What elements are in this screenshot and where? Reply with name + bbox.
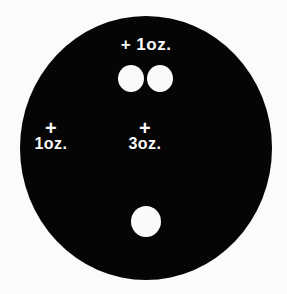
left-weight-label: 1oz. xyxy=(34,135,67,152)
center-weight-label: 3oz. xyxy=(128,135,161,152)
bottom-hole xyxy=(131,206,161,237)
top-right-hole xyxy=(147,65,173,92)
top-left-hole xyxy=(118,65,144,92)
left-plus-mark: + xyxy=(26,120,76,136)
center-marker: + 3oz. xyxy=(118,120,172,152)
center-plus-mark: + xyxy=(118,120,172,136)
top-weight-label: + 1oz. xyxy=(108,37,184,53)
left-marker: + 1oz. xyxy=(26,120,76,152)
